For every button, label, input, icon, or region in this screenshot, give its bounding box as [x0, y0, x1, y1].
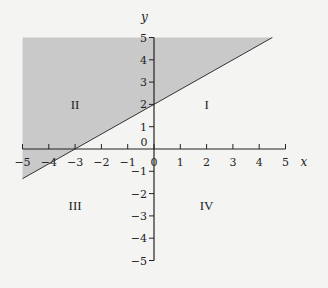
x-tick-label: 2	[203, 156, 210, 169]
origin-label: 0	[141, 136, 148, 149]
x-tick-label: 1	[177, 156, 184, 169]
x-tick-label: −4	[41, 156, 57, 169]
y-tick-label: 1	[140, 121, 147, 134]
y-tick-label: 5	[140, 32, 147, 45]
quadrant-label: III	[69, 198, 82, 213]
x-tick-label: 3	[229, 156, 236, 169]
y-tick-label: 3	[140, 76, 147, 89]
quadrant-label: I	[204, 97, 208, 112]
x-tick-label: −3	[67, 156, 83, 169]
x-tick-label: −2	[93, 156, 109, 169]
x-tick-label: 5	[282, 156, 289, 169]
x-tick-label: 0	[151, 156, 158, 169]
y-tick-label: −2	[131, 188, 147, 201]
quadrant-label: IV	[200, 198, 214, 213]
y-tick-label: 4	[140, 54, 147, 67]
y-tick-label: −5	[131, 255, 147, 268]
y-tick-label: −4	[131, 232, 147, 245]
y-axis-label: y	[140, 10, 148, 24]
y-tick-label: 2	[140, 98, 147, 111]
y-tick-label: −3	[131, 210, 147, 223]
quadrant-label: II	[71, 97, 80, 112]
y-tick-label: −1	[131, 165, 147, 178]
coordinate-plane-chart: −5−4−3−2−1012345 −5−4−3−2−112345 x y 0 I…	[0, 0, 328, 288]
x-axis-label: x	[301, 155, 308, 169]
x-tick-label: −5	[14, 156, 30, 169]
x-tick-label: 4	[256, 156, 263, 169]
